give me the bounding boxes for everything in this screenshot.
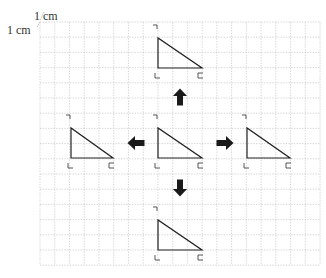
triangle-outline: [247, 128, 290, 158]
vertex-mark-right-angle: [68, 163, 73, 168]
arrow-up-icon: [173, 89, 187, 106]
vertex-mark-far: [109, 163, 114, 168]
triangle-outline: [71, 128, 113, 158]
vertex-mark-top: [153, 207, 157, 211]
triangle-outline: [158, 128, 202, 158]
arrow-down-icon: [173, 180, 187, 197]
triangle-bottom: [153, 207, 203, 260]
vertex-mark-top: [242, 115, 246, 119]
vertex-mark-right-angle: [155, 255, 160, 260]
triangle-outline: [158, 38, 202, 68]
vertex-mark-top: [153, 115, 157, 119]
translation-diagram: 1 cm 1 cm: [0, 0, 326, 278]
triangle-left: [66, 115, 114, 168]
triangle-center: [153, 115, 203, 168]
triangles: [66, 25, 291, 260]
vertex-mark-top: [153, 25, 157, 29]
vertex-mark-right-angle: [155, 163, 160, 168]
grid-canvas: [0, 0, 326, 278]
arrow-left-icon: [128, 136, 145, 150]
triangle-top: [153, 25, 203, 78]
arrow-right-icon: [217, 136, 234, 150]
direction-arrows: [128, 89, 234, 197]
scale-label-horizontal: 1 cm: [34, 10, 58, 22]
triangle-right: [242, 115, 291, 168]
scale-label-vertical: 1 cm: [7, 24, 31, 36]
vertex-mark-right-angle: [155, 73, 160, 78]
